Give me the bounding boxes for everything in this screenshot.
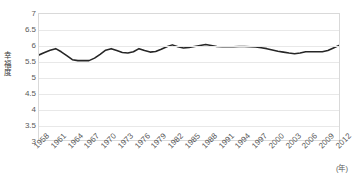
y-axis-tick-label: 3.5	[14, 121, 36, 130]
y-axis-tick-labels: 76.565.554.543.53	[14, 0, 36, 184]
plot-area	[38, 13, 340, 141]
y-axis-title: 幸 福 度	[1, 52, 13, 78]
y-axis-tick-label: 6	[14, 41, 36, 50]
gridline	[39, 30, 339, 31]
y-axis-tick-label: 7	[14, 9, 36, 18]
y-axis-tick-label: 5	[14, 73, 36, 82]
gridline	[39, 78, 339, 79]
gridline	[39, 126, 339, 127]
gridline	[39, 94, 339, 95]
happiness-line-chart: 幸 福 度 76.565.554.543.53 1958196119641967…	[0, 0, 361, 184]
x-axis-unit-label: (年)	[336, 162, 348, 173]
y-axis-tick-label: 5.5	[14, 57, 36, 66]
series-line-svg	[39, 14, 339, 140]
y-axis-tick-label: 4	[14, 105, 36, 114]
gridline	[39, 62, 339, 63]
gridline	[39, 46, 339, 47]
y-axis-title-char-3: 度	[1, 69, 13, 78]
y-axis-tick-label: 4.5	[14, 89, 36, 98]
gridline	[39, 110, 339, 111]
y-axis-tick-label: 6.5	[14, 25, 36, 34]
